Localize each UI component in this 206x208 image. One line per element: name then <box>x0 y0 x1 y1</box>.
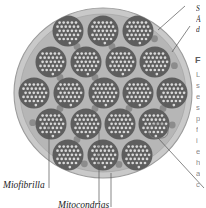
right-body-line-11: c <box>196 180 200 189</box>
myofibril <box>53 140 84 171</box>
myofibril <box>71 47 102 78</box>
right-body-line-1: L <box>196 70 200 79</box>
right-heading-3: d <box>196 25 200 34</box>
muscle-fiber-diagram <box>0 0 206 208</box>
right-body-line-4: s <box>196 103 200 112</box>
leader-membrane-dot <box>172 26 190 52</box>
right-body-line-10: a <box>196 169 200 178</box>
right-body-line-8: e <box>196 147 200 156</box>
myofibril <box>88 140 119 171</box>
myofibril <box>122 140 153 171</box>
myofibril <box>19 78 50 109</box>
right-section-heading: F <box>195 55 201 65</box>
leader-sarcolemma <box>158 6 185 30</box>
right-body-line-9: h <box>196 158 200 167</box>
myofibril <box>105 109 136 140</box>
right-body-line-3: e <box>196 92 200 101</box>
right-body-line-2: s <box>196 81 200 90</box>
myofibril <box>123 16 154 47</box>
right-heading-2: Á <box>196 15 201 24</box>
myofibril <box>157 78 188 109</box>
myofibril <box>53 16 84 47</box>
right-body-line-6: f <box>196 125 198 134</box>
myofibril <box>89 78 120 109</box>
mitochondrion <box>169 122 176 129</box>
mitochondrion <box>171 62 178 69</box>
label-myofibril: Miofibrilla <box>3 180 45 190</box>
myofibril <box>54 78 85 109</box>
myofibril <box>140 47 171 78</box>
mitochondrion <box>29 119 36 126</box>
myofibril <box>88 16 119 47</box>
myofibril <box>36 109 67 140</box>
myofibril <box>71 109 102 140</box>
right-heading-1: S <box>196 4 200 13</box>
myofibril <box>123 78 154 109</box>
right-body-line-5: p <box>196 114 200 123</box>
right-body-line-7: i <box>196 136 198 145</box>
myofibril <box>36 47 67 78</box>
myofibril <box>106 47 137 78</box>
label-mitochondria: Mitocondrias <box>58 200 109 208</box>
